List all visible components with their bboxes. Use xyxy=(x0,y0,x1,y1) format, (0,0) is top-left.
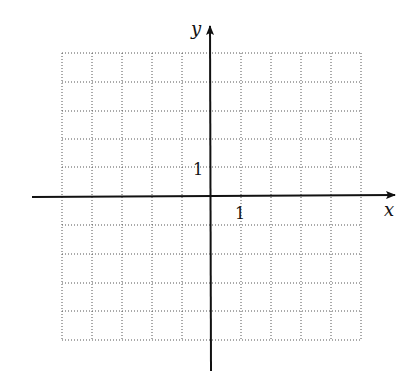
y-tick-label: 1 xyxy=(193,160,203,179)
coordinate-plane: y x 1 1 xyxy=(0,0,412,389)
y-axis-label: y xyxy=(190,18,202,39)
x-axis xyxy=(32,195,395,197)
x-axis-label: x xyxy=(384,199,394,220)
y-axis xyxy=(210,26,211,371)
x-tick-label: 1 xyxy=(235,204,245,223)
